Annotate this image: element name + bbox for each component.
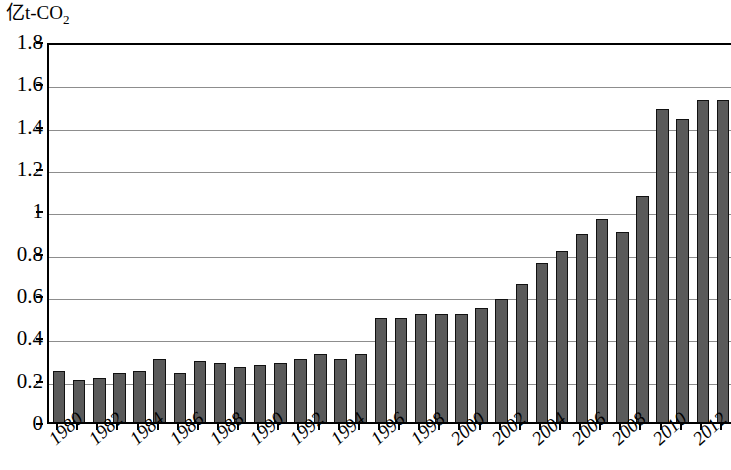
bar bbox=[214, 363, 226, 422]
x-axis-tick-mark bbox=[237, 424, 239, 430]
x-axis-tick-mark bbox=[277, 424, 279, 430]
x-axis-tick-mark bbox=[398, 424, 400, 430]
y-axis-tick-mark bbox=[36, 254, 43, 256]
y-axis-tick-mark bbox=[36, 338, 43, 340]
x-axis-tick-mark bbox=[116, 424, 118, 430]
bar bbox=[455, 314, 467, 422]
y-axis-tick-mark bbox=[36, 127, 43, 129]
bar bbox=[596, 219, 608, 422]
bar bbox=[435, 314, 447, 422]
y-axis-tick-mark bbox=[36, 296, 43, 298]
bar bbox=[294, 359, 306, 423]
y-axis-tick-mark bbox=[36, 423, 43, 425]
bar bbox=[415, 314, 427, 422]
bar bbox=[516, 284, 528, 422]
x-axis-tick-mark bbox=[318, 424, 320, 430]
bar bbox=[475, 308, 487, 422]
bar-chart: 亿t-CO2 1.81.61.41.210.80.60.40.20 198019… bbox=[0, 0, 731, 470]
plot-area bbox=[47, 43, 731, 424]
bars-layer bbox=[49, 45, 731, 422]
x-axis-tick-mark bbox=[157, 424, 159, 430]
y-axis-tick-mark bbox=[36, 169, 43, 171]
bar bbox=[133, 371, 145, 422]
bar bbox=[395, 318, 407, 422]
y-axis-tick-mark bbox=[36, 381, 43, 383]
y-axis: 1.81.61.41.210.80.60.40.20 bbox=[0, 43, 43, 424]
x-axis-tick-mark bbox=[519, 424, 521, 430]
x-axis-tick-mark bbox=[479, 424, 481, 430]
y-axis-tick-mark bbox=[36, 211, 43, 213]
bar bbox=[254, 365, 266, 422]
x-axis-tick-mark bbox=[197, 424, 199, 430]
x-axis: 1980198219841986198819901992199419961998… bbox=[47, 424, 731, 470]
y-axis-tick-mark bbox=[36, 42, 43, 44]
bar bbox=[556, 251, 568, 422]
chart-unit-title: 亿t-CO2 bbox=[6, 2, 70, 31]
bar bbox=[676, 119, 688, 422]
x-axis-tick-mark bbox=[559, 424, 561, 430]
bar bbox=[334, 359, 346, 423]
x-axis-tick-mark bbox=[76, 424, 78, 430]
x-axis-tick-mark bbox=[639, 424, 641, 430]
chart-unit-title-main: 亿t-CO bbox=[6, 2, 63, 23]
chart-unit-title-subscript: 2 bbox=[63, 12, 70, 27]
x-axis-tick-mark bbox=[358, 424, 360, 430]
bar bbox=[697, 100, 709, 422]
x-axis-tick-mark bbox=[680, 424, 682, 430]
y-axis-tick-mark bbox=[36, 84, 43, 86]
bar bbox=[616, 232, 628, 423]
x-axis-tick-mark bbox=[438, 424, 440, 430]
x-axis-tick-mark bbox=[599, 424, 601, 430]
bar bbox=[375, 318, 387, 422]
bar bbox=[656, 109, 668, 422]
x-axis-tick-mark bbox=[720, 424, 722, 430]
bar bbox=[536, 263, 548, 422]
bar bbox=[717, 100, 729, 422]
bar bbox=[576, 234, 588, 422]
bar bbox=[636, 196, 648, 422]
bar bbox=[495, 299, 507, 422]
